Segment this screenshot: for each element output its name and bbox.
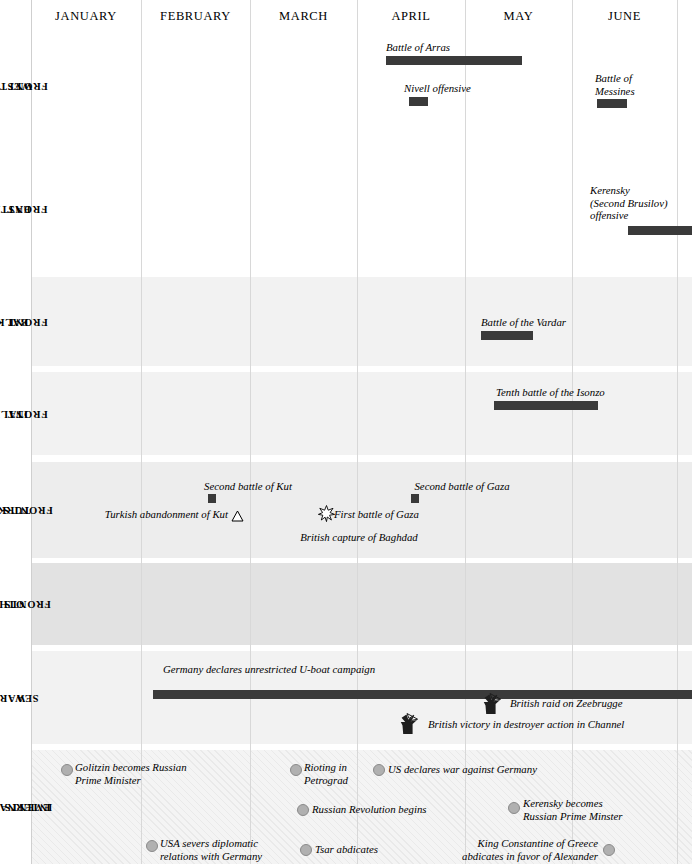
- event-label-tenth-battle-isonzo: Tenth battle of the Isonzo: [496, 386, 605, 399]
- event-label-tsar-abdicates: Tsar abdicates: [315, 843, 378, 856]
- event-bar-nivelle-offensive: [409, 97, 428, 106]
- month-label-april: APRIL: [357, 9, 465, 24]
- grid-line-may: [465, 0, 466, 864]
- event-bar-battle-of-messines: [597, 99, 627, 108]
- event-label-rioting-petrograd: Rioting inPetrograd: [304, 761, 348, 786]
- grid-line-april: [357, 0, 358, 864]
- event-label-constantine-line1: King Constantine of Greece: [478, 837, 598, 849]
- grid-line-june: [572, 0, 573, 864]
- event-marker-russian-revolution: [297, 804, 309, 816]
- month-label-may: MAY: [465, 9, 572, 24]
- event-label-kerensky-line3: offensive: [590, 209, 628, 221]
- event-marker-us-declares-war: [373, 764, 385, 776]
- row-label-balkan: BALKANFRONT: [0, 277, 31, 366]
- event-label-kerensky-prime-minister: Kerensky becomesRussian Prime Minster: [523, 797, 623, 822]
- event-label-russian-revolution: Russian Revolution begins: [312, 803, 427, 816]
- row-label-eastern-line2: FRONT: [0, 203, 55, 215]
- row-label-western-line2: FRONT: [0, 80, 56, 92]
- row-label-western: WESTERNFRONT: [0, 32, 31, 140]
- event-marker-king-constantine: [603, 844, 615, 856]
- row-label-italian: ITALIANFRONT: [0, 372, 31, 455]
- event-label-kerensky-line2: (Second Brusilov): [590, 197, 668, 209]
- event-label-kerensky-line1: Kerensky: [590, 184, 630, 196]
- event-label-kerensky-pm-line1: Kerensky becomes: [523, 797, 603, 809]
- event-label-golitzin-line2: Prime Minister: [75, 774, 141, 786]
- event-label-second-battle-of-gaza: Second battle of Gaza: [414, 480, 509, 493]
- event-marker-usa-severs-relations: [146, 840, 158, 852]
- event-label-king-constantine: King Constantine of Greeceabdicates in f…: [462, 837, 598, 862]
- triangle-icon-turkish-abandonment: [231, 508, 244, 526]
- event-label-usa-severs-line2: relations with Germany: [160, 850, 262, 862]
- event-marker-second-battle-of-gaza: [411, 494, 419, 503]
- burst-icon-zeebrugge: [483, 693, 507, 719]
- row-band-italian: [31, 372, 692, 455]
- event-label-british-capture-of-baghdad: British capture of Baghdad: [300, 531, 417, 544]
- row-band-other: [31, 563, 692, 645]
- event-label-uboat-campaign: Germany declares unrestricted U-boat cam…: [163, 663, 375, 676]
- event-label-messines-line2: Messines: [595, 85, 635, 97]
- row-label-balkan-line2: FRONT: [3, 316, 52, 328]
- burst-icon-destroyer-action: [400, 713, 424, 739]
- event-bar-battle-of-arras: [386, 56, 522, 65]
- event-label-battle-of-arras: Battle of Arras: [386, 41, 450, 54]
- event-label-golitzin: Golitzin becomes RussianPrime Minister: [75, 761, 187, 786]
- row-band-western: [31, 32, 692, 140]
- grid-line-march: [250, 0, 251, 864]
- event-marker-golitzin: [61, 764, 73, 776]
- event-label-battle-of-vardar: Battle of the Vardar: [481, 316, 566, 329]
- row-label-other: OTHERFRONTS: [0, 563, 31, 645]
- row-label-italian-line2: FRONT: [3, 408, 52, 420]
- burst-icon-first-battle-of-gaza: [318, 505, 335, 526]
- event-marker-kerensky-prime-minister: [508, 802, 520, 814]
- event-label-kerensky-pm-line2: Russian Prime Minster: [523, 810, 623, 822]
- row-label-intl-line2: EVENTS: [0, 801, 77, 813]
- event-label-first-battle-of-gaza: First battle of Gaza: [334, 508, 419, 521]
- row-label-turkish-line2: FRONT S: [1, 504, 54, 516]
- event-marker-tsar-abdicates: [300, 844, 312, 856]
- event-bar-kerensky-offensive: [628, 226, 692, 235]
- event-label-nivelle-offensive: Nivell offensive: [404, 82, 471, 95]
- event-marker-second-battle-of-kut: [208, 494, 216, 503]
- row-band-balkan: [31, 277, 692, 366]
- wwi-timeline-chart: JANUARY FEBRUARY MARCH APRIL MAY JUNE WE…: [0, 0, 692, 864]
- event-label-destroyer-action: British victory in destroyer action in C…: [428, 718, 624, 731]
- grid-line-february: [141, 0, 142, 864]
- month-label-june: JUNE: [572, 9, 677, 24]
- grid-line-july: [677, 0, 678, 864]
- month-header: JANUARY FEBRUARY MARCH APRIL MAY JUNE: [0, 0, 692, 30]
- event-label-zeebrugge: British raid on Zeebrugge: [510, 697, 622, 710]
- event-label-turkish-abandonment-of-kut: Turkish abandonment of Kut: [105, 508, 228, 521]
- event-label-rioting-line2: Petrograd: [304, 774, 348, 786]
- event-bar-battle-of-vardar: [481, 331, 533, 340]
- event-label-rioting-line1: Rioting in: [304, 761, 347, 773]
- event-label-usa-severs-relations: USA severs diplomaticrelations with Germ…: [160, 837, 262, 862]
- month-label-january: JANUARY: [31, 9, 141, 24]
- event-bar-tenth-battle-isonzo: [494, 401, 598, 410]
- event-label-us-declares-war: US declares war against Germany: [388, 763, 537, 776]
- row-label-other-line2: FRONTS: [4, 598, 51, 610]
- row-label-sea-line2: SEA: [5, 692, 50, 704]
- event-marker-rioting-petrograd: [290, 764, 302, 776]
- month-label-february: FEBRUARY: [141, 9, 250, 24]
- event-label-usa-severs-line1: USA severs diplomatic: [160, 837, 258, 849]
- row-label-intl: INTERNATIONALEVENTS: [0, 750, 31, 864]
- event-label-second-battle-of-kut: Second battle of Kut: [204, 480, 292, 493]
- event-label-messines-line1: Battle of: [595, 72, 632, 84]
- event-label-battle-of-messines: Battle ofMessines: [595, 72, 635, 97]
- event-label-golitzin-line1: Golitzin becomes Russian: [75, 761, 187, 773]
- event-label-kerensky-offensive: Kerensky(Second Brusilov)offensive: [590, 184, 668, 222]
- row-label-eastern: EASTERNFRONT: [0, 148, 31, 270]
- month-label-march: MARCH: [250, 9, 357, 24]
- event-label-constantine-line2: abdicates in favor of Alexander: [462, 850, 598, 862]
- row-label-sea: WAR ATSEA: [0, 651, 31, 744]
- row-label-turkish: TURKISHFRONT S: [0, 462, 31, 558]
